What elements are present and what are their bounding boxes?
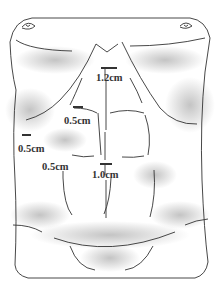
measure-label-left-flank: 0.5cm <box>18 144 45 155</box>
abdomen-outline-drawing <box>0 0 220 283</box>
measure-label-upper-midline: 1.2cm <box>96 73 123 84</box>
measure-bar-upper-midline <box>101 67 117 69</box>
measure-bar-left-upper-rectus <box>73 106 83 108</box>
abdomen-diagram: 1.2cm 0.5cm 0.5cm 0.5cm 1.0cm <box>0 0 220 283</box>
measure-bar-left-flank <box>22 134 31 136</box>
measure-label-lower-midline: 1.0cm <box>92 170 119 181</box>
measure-label-left-lower-rectus: 0.5cm <box>42 162 69 173</box>
measure-bar-lower-midline <box>100 163 112 165</box>
measure-label-left-upper-rectus: 0.5cm <box>64 116 91 127</box>
